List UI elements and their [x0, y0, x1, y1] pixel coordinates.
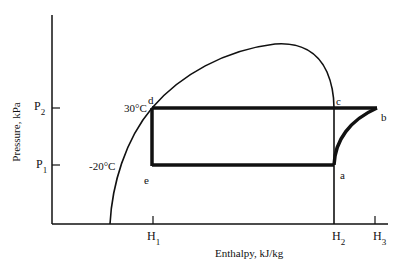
saturation-dome — [110, 44, 334, 224]
y-tick-label-p1: P1 — [36, 157, 47, 175]
x-tick-label-h3: H3 — [373, 229, 387, 247]
x-axis-label: Enthalpy, kJ/kg — [215, 247, 284, 259]
y-tick-label-p2: P2 — [34, 99, 45, 117]
point-label-e: e — [144, 174, 149, 186]
y-axis-label: Pressure, kPa — [10, 102, 22, 161]
high-temperature-label: 30°C — [124, 102, 147, 114]
low-temperature-label: -20°C — [89, 160, 115, 172]
point-label-b: b — [381, 111, 387, 123]
pressure-enthalpy-diagram: Pressure, kPa P2 P1 30°C -20°C d c b a e… — [0, 0, 414, 270]
point-label-d: d — [148, 94, 154, 106]
x-tick-label-h2: H2 — [332, 229, 345, 247]
x-tick-label-h1: H1 — [147, 229, 160, 247]
compression-curve-a-to-b — [334, 108, 377, 165]
point-label-c: c — [336, 95, 341, 107]
point-label-a: a — [340, 169, 345, 181]
